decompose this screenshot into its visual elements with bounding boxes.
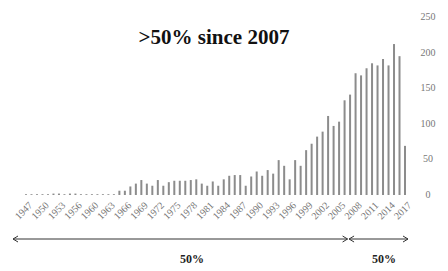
bar-1992 [267, 170, 269, 195]
bars [25, 44, 406, 195]
bar-2016 [399, 56, 401, 195]
bar-1979 [195, 179, 197, 195]
bar-1995 [283, 166, 285, 195]
bar-1956 [74, 194, 76, 195]
bar-1961 [96, 194, 98, 195]
bar-1996 [289, 179, 291, 195]
bar-2001 [316, 137, 318, 195]
bar-1999 [305, 150, 307, 195]
bar-1951 [47, 194, 49, 195]
bar-1982 [212, 181, 214, 195]
bar-1991 [261, 176, 263, 195]
bar-2015 [393, 44, 395, 195]
bar-1967 [129, 186, 131, 195]
bar-2014 [388, 65, 390, 195]
bar-1958 [80, 194, 82, 195]
bar-1952 [52, 194, 54, 195]
bar-1953 [58, 194, 60, 195]
bar-1965 [118, 191, 120, 195]
bar-1983 [217, 186, 219, 195]
bar-1969 [140, 180, 142, 195]
bar-1960 [91, 194, 93, 195]
bar-2006 [344, 100, 346, 195]
bar-2002 [322, 132, 324, 195]
bar-2017 [404, 146, 406, 195]
x-axis: 1947195019531956196019631966196919721975… [13, 200, 414, 222]
chart-title: >50% since 2007 [139, 25, 290, 49]
y-axis: 050100150200250 [421, 11, 436, 200]
bar-1962 [102, 194, 104, 195]
bar-1947 [25, 194, 27, 195]
span-label: 50% [372, 252, 396, 266]
bar-1964 [113, 194, 115, 195]
bar-2003 [327, 116, 329, 195]
bar-1975 [173, 181, 175, 195]
bar-2005 [338, 122, 340, 195]
bar-1950 [41, 194, 43, 195]
bar-2010 [366, 68, 368, 195]
bar-1972 [157, 180, 159, 195]
y-tick-label: 0 [426, 189, 431, 200]
bar-2009 [360, 75, 362, 195]
bar-1980 [201, 184, 203, 195]
bar-chart: >50% since 2007 050100150200250 19471950… [0, 0, 448, 271]
bar-1976 [179, 181, 181, 195]
bar-1993 [272, 174, 274, 195]
y-tick-label: 200 [421, 47, 436, 58]
bar-1984 [223, 179, 225, 195]
bar-1948 [30, 194, 32, 195]
bar-1973 [162, 186, 164, 195]
y-tick-label: 50 [423, 153, 433, 164]
bar-1955 [69, 194, 71, 195]
bar-1990 [256, 172, 258, 195]
bar-2000 [311, 144, 313, 195]
bar-1989 [250, 176, 252, 195]
bar-1985 [228, 176, 230, 195]
bar-2008 [355, 73, 357, 195]
x-tick-label: 2017 [392, 200, 414, 222]
bar-1986 [234, 175, 236, 195]
bar-1997 [294, 160, 296, 195]
bar-1988 [245, 186, 247, 195]
bar-1994 [278, 160, 280, 195]
y-tick-label: 100 [421, 118, 436, 129]
bar-1978 [190, 180, 192, 195]
bar-2012 [377, 65, 379, 195]
bar-2007 [349, 95, 351, 195]
bar-1963 [107, 194, 109, 195]
y-tick-label: 150 [421, 82, 436, 93]
y-tick-label: 250 [421, 11, 436, 22]
bar-1977 [184, 181, 186, 195]
bar-1959 [85, 194, 87, 195]
bar-1998 [300, 166, 302, 195]
bar-1981 [206, 186, 208, 195]
bar-1949 [36, 194, 38, 195]
span-label: 50% [180, 252, 204, 266]
bar-2004 [333, 126, 335, 195]
bar-2011 [371, 63, 373, 195]
bar-1974 [168, 182, 170, 195]
bar-1987 [239, 175, 241, 195]
bar-1954 [63, 194, 65, 195]
annotations: 50%50% [13, 236, 408, 266]
bar-1968 [135, 184, 137, 195]
bar-1970 [146, 184, 148, 195]
bar-1971 [151, 186, 153, 195]
bar-2013 [382, 59, 384, 195]
bar-1966 [124, 191, 126, 195]
